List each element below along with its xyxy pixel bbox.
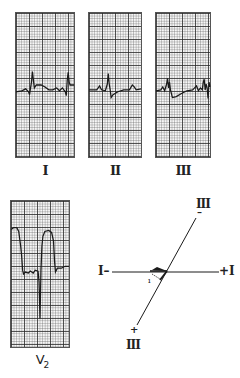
lead-i-negative-label: I– [98,264,110,278]
hexaxial-diagram [0,0,240,378]
lead-iii-positive-label: III [126,338,140,352]
lead-iii-negative-sign: – [197,206,202,217]
lead-iii-positive-sign: + [130,324,138,335]
vector-tick-mark: ı [148,276,151,285]
lead-i-positive-label: +I [219,264,235,278]
mean-vector-arrow-icon [150,267,167,280]
